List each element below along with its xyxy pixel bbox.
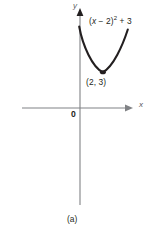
x-axis-arrowhead (125, 105, 133, 112)
parabola-figure: (x − 2)2 + 3 (2, 3) 0 x y (a) (0, 0, 153, 230)
curve-equation-label: (x − 2)2 + 3 (89, 17, 132, 25)
y-axis-label: y (73, 2, 77, 10)
parabola-curve (79, 27, 128, 73)
figure-caption: (a) (67, 215, 77, 223)
vertex-coordinate-label: (2, 3) (86, 78, 106, 86)
x-axis-label: x (139, 101, 143, 109)
y-axis-arrowhead (77, 8, 84, 16)
origin-label: 0 (71, 110, 76, 119)
vertex-marker (100, 70, 106, 74)
plot-canvas (0, 0, 153, 230)
